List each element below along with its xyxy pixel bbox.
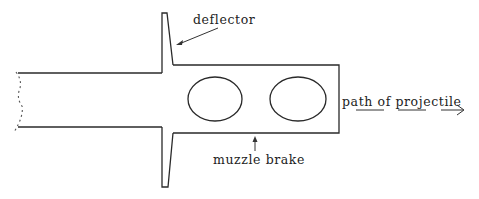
- deflector: [162, 13, 173, 187]
- barrel: [14, 72, 162, 132]
- port-left: [188, 77, 242, 121]
- port-right: [270, 77, 326, 121]
- muzzle-brake: [173, 65, 339, 133]
- barrel-break-line: [14, 72, 22, 132]
- muzzle-brake-callout: muzzle brake: [213, 136, 305, 167]
- deflector-arrowhead-icon: [176, 40, 183, 45]
- muzzle-brake-body: [173, 65, 339, 133]
- muzzle-brake-label: muzzle brake: [213, 152, 305, 167]
- deflector-arrow-shaft: [179, 28, 218, 44]
- deflector-lower: [162, 127, 173, 187]
- projectile-path-label: path of projectile: [342, 94, 462, 109]
- projectile-path-callout: path of projectile: [342, 94, 464, 115]
- deflector-label: deflector: [193, 12, 255, 27]
- deflector-upper: [162, 13, 173, 73]
- muzzle-brake-arrowhead-icon: [253, 136, 258, 142]
- muzzle-brake-diagram: deflector muzzle brake path of projectil…: [0, 0, 479, 199]
- deflector-callout: deflector: [176, 12, 255, 45]
